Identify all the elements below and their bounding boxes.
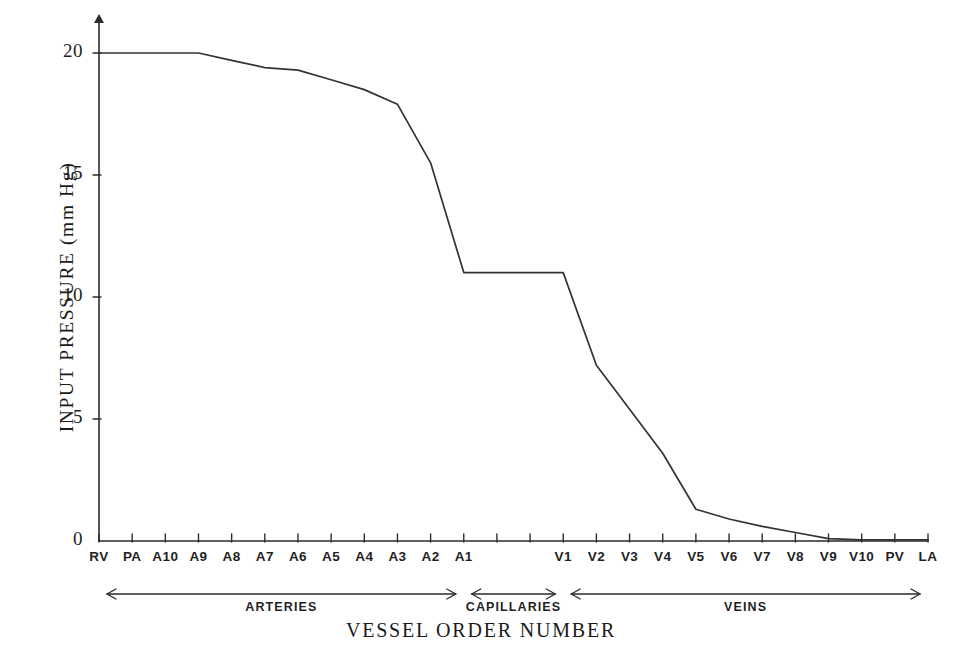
x-tick-label: V1	[555, 549, 572, 564]
x-tick-label: A9	[189, 549, 207, 564]
y-tick-label: 0	[49, 528, 83, 550]
chart-figure: 05101520 RVPAA10A9A8A7A6A5A4A3A2A1V1V2V3…	[0, 0, 962, 656]
x-axis-title: VESSEL ORDER NUMBER	[0, 619, 962, 642]
x-tick-label: V8	[787, 549, 804, 564]
x-tick-label: A7	[256, 549, 274, 564]
span-label-capillaries: CAPILLARIES	[466, 600, 561, 614]
x-tick-label: A2	[422, 549, 440, 564]
x-tick-label: A8	[223, 549, 241, 564]
x-tick-label: A1	[455, 549, 473, 564]
x-tick-label: V5	[687, 549, 704, 564]
x-tick-label: V7	[754, 549, 771, 564]
y-axis-arrowhead	[94, 14, 104, 23]
x-tick-label: V4	[654, 549, 671, 564]
span-arrows-group	[107, 589, 920, 599]
span-label-arteries: ARTERIES	[245, 600, 317, 614]
y-tick-label: 20	[49, 40, 83, 62]
x-tick-label: A3	[388, 549, 406, 564]
x-tick-label: LA	[919, 549, 938, 564]
tick-marks-group	[93, 53, 928, 542]
plot-canvas	[0, 0, 962, 656]
span-label-veins: VEINS	[724, 600, 767, 614]
x-tick-label: A5	[322, 549, 340, 564]
x-tick-label: V10	[849, 549, 874, 564]
x-tick-label: V6	[720, 549, 737, 564]
axes-group	[94, 14, 928, 541]
x-tick-label: PV	[885, 549, 904, 564]
x-tick-label: A10	[152, 549, 178, 564]
pressure-curve	[99, 53, 928, 540]
x-tick-label: V2	[588, 549, 605, 564]
x-tick-label: RV	[89, 549, 108, 564]
x-tick-label: PA	[123, 549, 142, 564]
x-tick-label: V3	[621, 549, 638, 564]
x-tick-label: A4	[355, 549, 373, 564]
y-axis-title: INPUT PRESSURE (mm Hg)	[56, 97, 78, 497]
x-tick-label: A6	[289, 549, 307, 564]
x-tick-label: V9	[820, 549, 837, 564]
